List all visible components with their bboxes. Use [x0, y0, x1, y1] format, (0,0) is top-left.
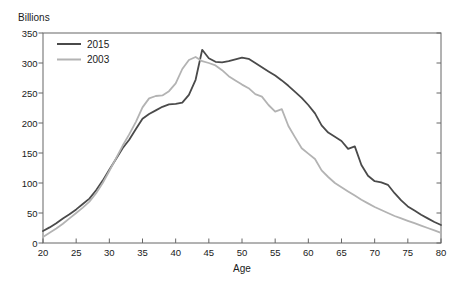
y-tick-label: 350	[22, 28, 38, 39]
x-axis-title: Age	[233, 263, 251, 274]
x-tick-label: 45	[204, 247, 215, 258]
x-tick-label: 75	[403, 247, 414, 258]
line-chart-figure: Billions 0501001502002503003502025303540…	[0, 0, 458, 294]
x-tick-label: 25	[71, 247, 82, 258]
y-tick-label: 100	[22, 178, 38, 189]
series-line-2015	[43, 50, 441, 231]
x-tick-label: 20	[38, 247, 49, 258]
legend-label-2015: 2015	[87, 39, 110, 50]
y-axis-unit-label: Billions	[18, 12, 50, 23]
x-tick-label: 80	[436, 247, 447, 258]
y-tick-label: 150	[22, 148, 38, 159]
x-tick-label: 55	[270, 247, 281, 258]
x-tick-label: 60	[303, 247, 314, 258]
age-billions-line-chart: Billions 0501001502002503003502025303540…	[0, 0, 458, 294]
x-tick-label: 65	[336, 247, 347, 258]
y-tick-label: 200	[22, 118, 38, 129]
legend-label-2003: 2003	[87, 54, 110, 65]
x-tick-label: 40	[170, 247, 181, 258]
y-tick-label: 300	[22, 58, 38, 69]
x-tick-label: 50	[237, 247, 248, 258]
x-tick-label: 30	[104, 247, 115, 258]
legend: 2015 2003	[57, 39, 110, 66]
y-tick-label: 0	[32, 238, 37, 249]
y-tick-label: 250	[22, 88, 38, 99]
y-tick-label: 50	[27, 208, 38, 219]
x-tick-label: 35	[137, 247, 148, 258]
series-line-2003	[43, 57, 441, 237]
x-tick-label: 70	[369, 247, 380, 258]
plot-area: 0501001502002503003502025303540455055606…	[22, 28, 447, 259]
